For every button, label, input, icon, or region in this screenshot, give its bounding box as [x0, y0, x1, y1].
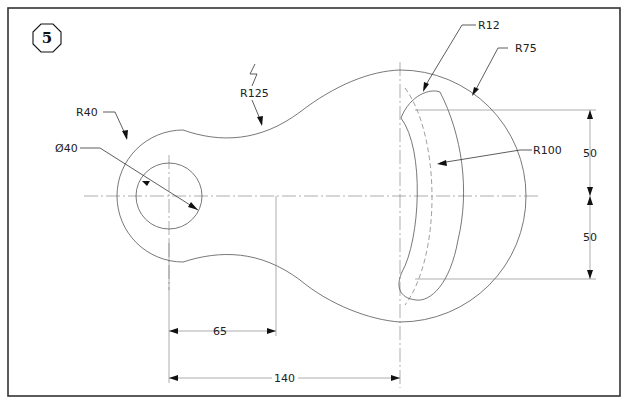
svg-text:R125: R125 [240, 87, 269, 100]
dim-horizontal: 65 140 [169, 196, 400, 385]
svg-text:R12: R12 [478, 19, 500, 32]
drawing-number: 5 [42, 29, 52, 47]
svg-text:65: 65 [213, 325, 227, 338]
dim-dia40: Ø40 [55, 142, 198, 210]
centerlines [84, 62, 540, 388]
svg-text:Ø40: Ø40 [55, 142, 78, 155]
dim-r40: R40 [76, 106, 128, 140]
svg-text:R40: R40 [76, 106, 98, 119]
svg-text:140: 140 [274, 372, 295, 385]
svg-text:R75: R75 [515, 42, 537, 55]
drawing-border [8, 8, 620, 396]
svg-text:50: 50 [583, 147, 597, 160]
technical-drawing: 5 Ø40 R40 R125 R12 [0, 0, 628, 403]
svg-text:50: 50 [583, 231, 597, 244]
curved-slot [399, 91, 464, 300]
svg-text:R100: R100 [533, 144, 562, 157]
dim-vertical-50: 50 50 [415, 110, 597, 279]
drawing-number-badge: 5 [33, 24, 61, 52]
dim-r100: R100 [437, 144, 562, 166]
dim-r75: R75 [472, 42, 537, 96]
dim-r12: R12 [423, 19, 500, 92]
dim-r125: R125 [240, 64, 269, 126]
